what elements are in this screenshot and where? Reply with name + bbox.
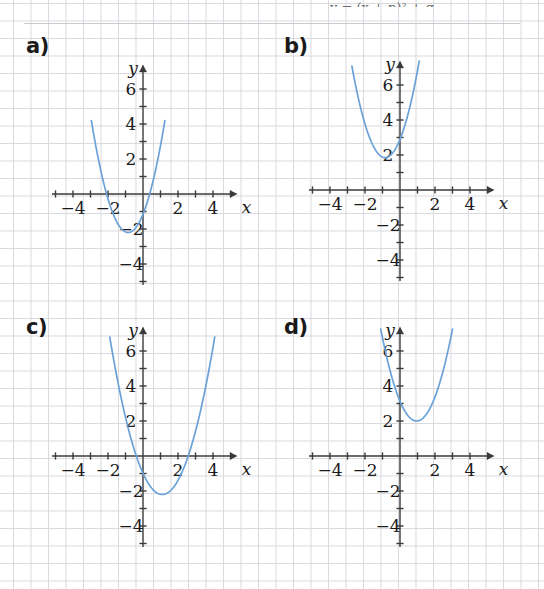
panel-a-graph: −4−224642−2−4xy — [0, 18, 272, 304]
panel-c-graph: −4−224642−2−4xy — [0, 299, 272, 585]
panel-d-graph: −4−224642−2−4xy — [258, 299, 530, 585]
y-tick-label: −4 — [375, 516, 400, 536]
y-tick-label: 6 — [383, 75, 394, 95]
x-tick-label: −2 — [95, 460, 120, 480]
panel-a-label: a) — [26, 36, 49, 57]
x-tick-label: −4 — [317, 194, 342, 214]
x-tick-label: 2 — [173, 198, 184, 218]
x-tick-label: 2 — [430, 194, 441, 214]
x-tick-label: 4 — [465, 460, 476, 480]
y-tick-label: 4 — [383, 110, 394, 130]
x-tick-label: 4 — [465, 194, 476, 214]
y-tick-label: −4 — [118, 254, 143, 274]
y-tick-label: 4 — [126, 376, 137, 396]
y-axis-arrow — [397, 61, 404, 68]
x-axis-arrow — [231, 191, 238, 198]
y-tick-label: −4 — [118, 516, 143, 536]
x-axis-name: x — [242, 459, 252, 479]
panel-b-graph: −4−224642−2−4xy — [258, 18, 530, 304]
y-axis-name: y — [127, 58, 138, 78]
x-axis-name: x — [499, 193, 509, 213]
panel-b-label: b) — [284, 36, 308, 57]
x-axis-arrow — [488, 453, 495, 460]
y-tick-label: −2 — [375, 481, 400, 501]
x-axis-name: x — [499, 459, 509, 479]
x-tick-label: 4 — [208, 460, 219, 480]
y-tick-label: −4 — [375, 250, 400, 270]
x-tick-label: −2 — [352, 194, 377, 214]
x-axis-name: x — [242, 197, 252, 217]
x-axis-arrow — [488, 187, 495, 194]
x-tick-label: 2 — [173, 460, 184, 480]
y-axis-arrow — [397, 327, 404, 334]
y-axis-name: y — [127, 320, 138, 340]
y-axis-arrow — [140, 65, 147, 72]
y-axis-name: y — [384, 320, 395, 340]
y-tick-label: 4 — [126, 114, 137, 134]
panel-d-label: d) — [284, 317, 308, 338]
y-tick-label: −2 — [375, 215, 400, 235]
y-tick-label: 2 — [383, 411, 394, 431]
panel-d: d) −4−224642−2−4xy — [258, 299, 530, 585]
x-tick-label: 4 — [208, 198, 219, 218]
panel-c: c) −4−224642−2−4xy — [0, 299, 272, 585]
x-tick-label: −2 — [352, 460, 377, 480]
panel-a: a) −4−224642−2−4xy — [0, 18, 272, 304]
y-tick-label: −2 — [118, 481, 143, 501]
y-axis-name: y — [384, 54, 395, 74]
parabola-worksheet: a) −4−224642−2−4xy b) −4−224642−2−4xy c)… — [0, 0, 544, 589]
y-tick-label: 6 — [126, 79, 137, 99]
y-axis-arrow — [140, 327, 147, 334]
panel-c-label: c) — [26, 317, 47, 338]
x-axis-arrow — [231, 453, 238, 460]
panel-b: b) −4−224642−2−4xy — [258, 18, 530, 304]
x-tick-label: −4 — [60, 460, 85, 480]
y-tick-label: 2 — [126, 149, 137, 169]
x-tick-label: 2 — [430, 460, 441, 480]
x-tick-label: −4 — [317, 460, 342, 480]
x-tick-label: −4 — [60, 198, 85, 218]
y-tick-label: 6 — [126, 341, 137, 361]
